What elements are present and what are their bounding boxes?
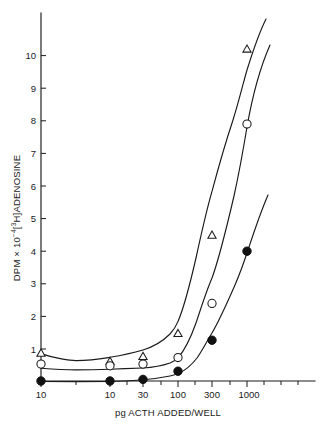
y-tick-label-1: 1 (31, 344, 36, 355)
x-tick-label-5: 1000 (238, 389, 259, 400)
x-axis-title: pg ACTH ADDED/WELL (115, 407, 221, 418)
data-point-triangle-0 (37, 349, 45, 356)
series-open-triangle (37, 19, 266, 364)
x-tick-label-4: 300 (204, 389, 220, 400)
y-tick-label-2: 2 (31, 311, 36, 322)
data-point-circle-1 (106, 362, 114, 370)
series-open-circle-markers (37, 120, 251, 370)
y-axis-title-element: H]ADENOSINE (11, 155, 22, 223)
data-point-circle-3 (174, 353, 182, 361)
x-tick-label-1: 10 (105, 389, 116, 400)
data-point-triangle-3 (174, 329, 182, 336)
data-point-triangle-4 (208, 231, 216, 238)
data-point-filled-1 (106, 377, 114, 385)
y-axis-title-exponent: −4 (10, 229, 17, 237)
y-tick-label-8: 8 (31, 115, 36, 126)
data-point-triangle-2 (139, 352, 147, 359)
y-axis-title: DPM × 10−4[3H]ADENOSINE (10, 155, 22, 281)
series-filled-circle (37, 195, 268, 385)
svg-text:DPM × 10−4[3H]ADENOSINE: DPM × 10−4[3H]ADENOSINE (10, 155, 22, 281)
y-tick-label-9: 9 (31, 83, 36, 94)
axes (41, 13, 315, 381)
x-tick-label-2: 30 (138, 389, 149, 400)
figure-container: 1 2 3 4 5 6 7 8 9 10 (0, 0, 326, 426)
x-tick-label-3: 100 (170, 389, 186, 400)
y-tick-label-7: 7 (31, 148, 36, 159)
data-point-filled-0 (37, 377, 45, 385)
y-tick-label-5: 5 (31, 213, 36, 224)
series-open-triangle-markers (37, 45, 251, 364)
series-open-circle (37, 45, 270, 370)
data-point-filled-3 (174, 367, 182, 375)
x-axis-tick-labels: 10 10 30 100 300 1000 (36, 389, 260, 400)
data-point-filled-5 (243, 247, 251, 255)
y-tick-label-6: 6 (31, 181, 36, 192)
data-point-circle-4 (208, 299, 216, 307)
series-filled-circle-line (41, 195, 268, 382)
y-axis-tick-labels: 1 2 3 4 5 6 7 8 9 10 (25, 50, 36, 354)
series-open-triangle-line (41, 19, 266, 361)
y-tick-label-10: 10 (25, 50, 36, 61)
data-point-circle-2 (139, 360, 147, 368)
data-point-filled-2 (139, 375, 147, 383)
data-point-circle-0 (37, 360, 45, 368)
y-tick-label-3: 3 (31, 278, 36, 289)
data-point-triangle-5 (243, 45, 251, 52)
data-point-filled-4 (208, 336, 216, 344)
x-tick-label-0: 10 (36, 389, 47, 400)
y-axis-ticks (41, 56, 46, 349)
y-axis-title-prefix: DPM × 10 (11, 237, 22, 281)
dose-response-plot: 1 2 3 4 5 6 7 8 9 10 (0, 0, 326, 426)
data-point-circle-5 (243, 120, 251, 128)
y-tick-label-4: 4 (31, 246, 36, 257)
series-open-circle-line (41, 45, 270, 370)
